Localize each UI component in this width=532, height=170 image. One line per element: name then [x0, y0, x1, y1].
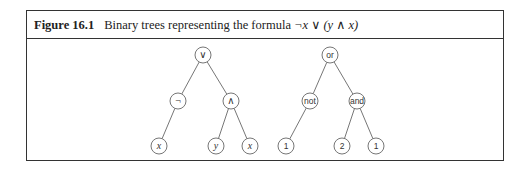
tree-edge [234, 108, 247, 138]
tree-edge [345, 109, 355, 139]
tree-node: or [322, 47, 338, 63]
node-label: 1 [374, 141, 379, 151]
tree-node: and [349, 93, 365, 109]
symbolic-tree: ∨¬∧xyx [151, 47, 258, 154]
tree-node: x [242, 138, 258, 154]
tree-node: not [302, 93, 318, 109]
tree-node: ∨ [195, 47, 211, 63]
node-label: y [213, 140, 219, 151]
tree-edge [182, 62, 199, 94]
node-label: 1 [284, 141, 289, 151]
tree-edge [162, 108, 175, 138]
node-label: x [247, 140, 253, 151]
node-label: 2 [340, 141, 345, 151]
tree-node: y [208, 138, 224, 154]
tree-edge [334, 62, 353, 94]
tree-node: ¬ [170, 93, 186, 109]
tree-edge [360, 108, 373, 138]
node-label: x [156, 140, 162, 151]
tree-node: ∧ [223, 93, 239, 109]
node-label: and [350, 96, 364, 106]
tree-node: 1 [278, 138, 294, 154]
node-label: ∨ [199, 49, 206, 60]
tree-edge [219, 109, 229, 139]
node-label: ∧ [227, 95, 234, 106]
tree-node: x [151, 138, 167, 154]
tree-node: 2 [334, 138, 350, 154]
node-label: ¬ [175, 95, 181, 106]
trees-diagram: ∨¬∧xyxornotand121 [0, 0, 532, 170]
tree-edge [290, 108, 306, 139]
node-label: or [326, 50, 334, 60]
node-label: not [304, 96, 316, 106]
tree-edge [313, 62, 327, 93]
tree-node: 1 [368, 138, 384, 154]
encoded-tree: ornotand121 [278, 47, 384, 154]
tree-edge [207, 62, 227, 94]
